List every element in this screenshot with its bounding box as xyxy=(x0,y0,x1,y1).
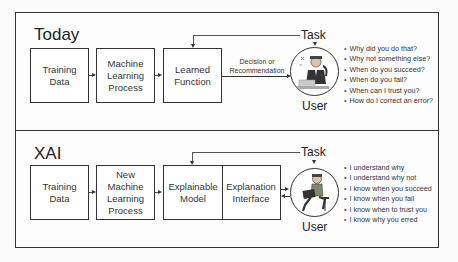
box-label: Learning xyxy=(107,70,144,81)
task-label-today: Task xyxy=(301,28,326,42)
box-label: Function xyxy=(174,76,210,87)
today-questions-list: Why did you do that? Why not something e… xyxy=(344,44,433,106)
statement-item: I understand why xyxy=(344,163,432,173)
box-label: Machine xyxy=(108,58,144,69)
box-label: Learned xyxy=(175,64,210,75)
user-label-today: User xyxy=(302,99,327,113)
arrow-down-icon xyxy=(313,42,317,46)
user-avatar-xai xyxy=(290,168,339,217)
arrow-right-icon xyxy=(285,187,289,191)
arrow-down-icon xyxy=(191,44,195,48)
question-item: When do you succeed? xyxy=(344,65,433,75)
decision-label-line2: Recommendation xyxy=(230,67,285,74)
box-label: Explainable xyxy=(168,181,217,192)
training-data-box-today: TrainingData xyxy=(30,48,89,103)
statement-item: I know when you succeed xyxy=(344,184,432,194)
arrow-right-icon xyxy=(158,73,162,77)
explainable-model-box: ExplainableModel xyxy=(163,165,223,220)
question-item: When can I trust you? xyxy=(344,86,433,96)
box-label: Training xyxy=(43,181,77,192)
box-label: Explanation xyxy=(226,181,276,192)
user-with-laptop-icon xyxy=(291,169,337,215)
box-label: New xyxy=(116,169,135,180)
box-label: Process xyxy=(108,82,142,93)
arrow-line xyxy=(285,196,290,197)
box-label: Model xyxy=(180,193,206,204)
decision-arrow-line xyxy=(222,76,288,77)
user-avatar-today: ?! xyxy=(290,47,339,96)
question-item: Why not something else? xyxy=(344,54,433,64)
arrow-down-icon xyxy=(190,161,194,165)
statement-item: I know when you fail xyxy=(344,194,432,204)
box-label: Training xyxy=(43,64,77,75)
box-label: Machine xyxy=(108,181,144,192)
confused-user-at-desk-icon: ?! xyxy=(291,48,337,94)
statement-item: I know when to trust you xyxy=(344,205,432,215)
xai-title: XAI xyxy=(34,144,61,164)
today-title: Today xyxy=(34,25,79,45)
statement-item: I understand why not xyxy=(344,173,432,183)
ml-process-box-today: MachineLearningProcess xyxy=(96,48,155,103)
box-label: Data xyxy=(49,76,69,87)
box-label: Data xyxy=(49,193,69,204)
arrow-left-icon xyxy=(281,194,285,198)
question-item: When do you fail? xyxy=(344,75,433,85)
decision-label: Decision orRecommendation xyxy=(224,57,290,75)
box-label: Learning xyxy=(107,193,144,204)
new-ml-process-box: NewMachineLearningProcess xyxy=(96,165,155,220)
question-item: Why did you do that? xyxy=(344,44,433,54)
box-label: Process xyxy=(108,205,142,216)
decision-label-line1: Decision or xyxy=(239,58,274,65)
training-data-box-xai: TrainingData xyxy=(30,165,89,220)
svg-text:?!: ?! xyxy=(299,63,302,68)
task-feedback-line xyxy=(193,35,300,36)
explanation-interface-box: ExplanationInterface xyxy=(222,165,281,220)
task-label-xai: Task xyxy=(301,145,326,159)
learned-function-box: LearnedFunction xyxy=(163,48,222,103)
arrow-down-icon xyxy=(312,160,316,164)
task-feedback-line xyxy=(192,152,300,153)
box-label: Interface xyxy=(233,193,270,204)
user-label-xai: User xyxy=(302,220,327,234)
statement-item: I know why you erred xyxy=(344,215,432,225)
arrow-right-icon xyxy=(158,190,162,194)
xai-statements-list: I understand why I understand why not I … xyxy=(344,163,432,225)
question-item: How do I correct an error? xyxy=(344,96,433,106)
